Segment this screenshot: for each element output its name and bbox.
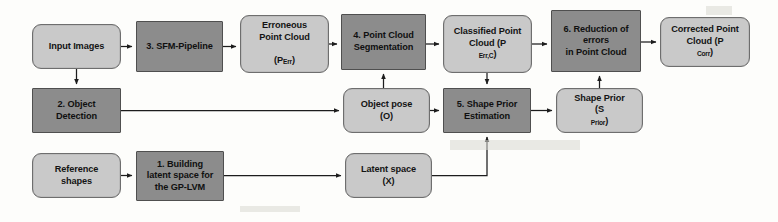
node-reference-shapes-label: Reference shapes xyxy=(55,164,99,187)
node-erroneous-point-cloud[interactable]: Erroneous Point Cloud(PErr) xyxy=(240,15,329,73)
node-sfm-pipeline-label: 3. SFM-Pipeline xyxy=(146,41,212,53)
node-reduction-of-errors[interactable]: 6. Reduction of errors in Point Cloud xyxy=(551,10,641,72)
node-input-images[interactable]: Input Images xyxy=(32,24,121,69)
node-corrected-point-cloud[interactable]: Corrected Point Cloud (PCorr) xyxy=(660,17,750,67)
node-input-images-label: Input Images xyxy=(49,41,104,53)
node-shape-prior-estimation-label: 5. Shape Prior Estimation xyxy=(457,99,517,122)
node-shape-prior-estimation[interactable]: 5. Shape Prior Estimation xyxy=(443,88,531,133)
node-object-detection-label: 2. Object Detection xyxy=(56,99,97,122)
node-latent-space-label: Latent space (X) xyxy=(361,164,416,187)
subscript-err: Err xyxy=(283,58,292,65)
node-building-latent-space[interactable]: 1. Building latent space for the GP-LVM xyxy=(136,151,224,201)
node-classified-point-cloud-label: Classified Point Cloud (PErr,C) xyxy=(454,26,521,62)
node-object-pose-label: Object pose (O) xyxy=(361,99,413,122)
subscript-prior: Prior xyxy=(591,119,605,126)
node-object-detection[interactable]: 2. Object Detection xyxy=(32,88,121,133)
node-latent-space[interactable]: Latent space (X) xyxy=(345,153,432,198)
node-reduction-of-errors-label: 6. Reduction of errors in Point Cloud xyxy=(564,24,629,59)
node-building-latent-space-label: 1. Building latent space for the GP-LVM xyxy=(147,159,213,194)
subscript-err-c: Err,C xyxy=(479,52,494,59)
flowchart-diagram: Input Images 3. SFM-Pipeline Erroneous P… xyxy=(0,0,778,222)
node-shape-prior[interactable]: Shape Prior (SPrior) xyxy=(556,88,643,133)
edge-latent-to-estimation xyxy=(432,137,487,176)
node-classified-point-cloud[interactable]: Classified Point Cloud (PErr,C) xyxy=(443,15,532,73)
subscript-corr: Corr xyxy=(697,50,710,57)
node-point-cloud-segmentation-label: 4. Point Cloud Segmentation xyxy=(353,30,413,53)
node-corrected-point-cloud-label: Corrected Point Cloud (PCorr) xyxy=(671,24,738,60)
node-point-cloud-segmentation[interactable]: 4. Point Cloud Segmentation xyxy=(341,14,426,70)
node-sfm-pipeline[interactable]: 3. SFM-Pipeline xyxy=(136,21,223,72)
scan-artifact xyxy=(240,206,300,212)
scan-artifact xyxy=(706,6,732,15)
node-shape-prior-label: Shape Prior (SPrior) xyxy=(574,93,624,129)
node-object-pose[interactable]: Object pose (O) xyxy=(343,88,430,133)
node-reference-shapes[interactable]: Reference shapes xyxy=(32,153,121,198)
scan-artifact xyxy=(450,140,580,150)
node-erroneous-point-cloud-label: Erroneous Point Cloud(PErr) xyxy=(259,20,309,68)
